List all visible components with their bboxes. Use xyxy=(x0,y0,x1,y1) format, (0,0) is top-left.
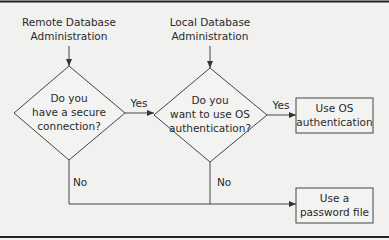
os-line2: want to use OS xyxy=(170,108,250,120)
secure-line3: connection? xyxy=(37,120,100,132)
local-line2: Administration xyxy=(172,30,249,42)
secure-no-label: No xyxy=(73,176,87,188)
os-yes-label: Yes xyxy=(272,99,290,111)
decision-secure-connection: Do you have a secure connection? xyxy=(14,66,125,160)
start-local-admin: Local Database Administration xyxy=(170,16,251,42)
secure-line1: Do you xyxy=(50,92,87,104)
decision-os-authentication: Do you want to use OS authentication? xyxy=(154,68,267,162)
path-secure-no xyxy=(69,160,210,204)
secure-yes-label: Yes xyxy=(130,97,148,109)
pwfile-line1: Use a xyxy=(320,192,349,204)
remote-line1: Remote Database xyxy=(22,16,116,28)
outcome-use-os-auth: Use OS authentication xyxy=(296,98,373,133)
remote-line2: Administration xyxy=(31,30,108,42)
use-os-line2: authentication xyxy=(296,116,372,128)
start-remote-admin: Remote Database Administration xyxy=(22,16,116,42)
flowchart-svg: Remote Database Administration Local Dat… xyxy=(0,0,389,240)
pwfile-line2: password file xyxy=(300,206,369,218)
os-line1: Do you xyxy=(191,94,228,106)
outcome-use-password-file: Use a password file xyxy=(296,188,373,223)
local-line1: Local Database xyxy=(170,16,251,28)
secure-line2: have a secure xyxy=(32,106,106,118)
use-os-line1: Use OS xyxy=(316,102,354,114)
flowchart-canvas: Remote Database Administration Local Dat… xyxy=(0,0,389,240)
os-no-label: No xyxy=(217,176,231,188)
os-line3: authentication? xyxy=(169,122,251,134)
